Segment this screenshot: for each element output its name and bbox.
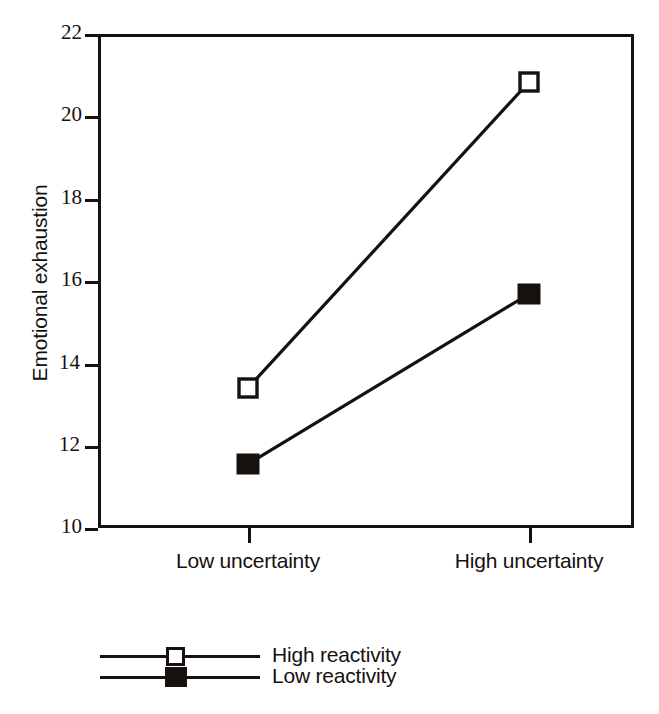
x-tick-label-high-uncertainty: High uncertainty [429, 549, 629, 573]
y-tick-label-16: 16 [40, 269, 82, 290]
chart-legend: High reactivity Low reactivity [98, 636, 518, 698]
plot-area-frame [98, 34, 634, 528]
y-tick-12 [85, 446, 98, 449]
y-tick-label-18: 18 [40, 187, 82, 208]
filled-square-icon [165, 667, 187, 687]
legend-label-low-reactivity: Low reactivity [272, 664, 396, 688]
y-tick-10 [85, 528, 98, 531]
y-tick-label-14: 14 [38, 352, 80, 373]
legend-entry-low-reactivity: Low reactivity [98, 665, 518, 691]
y-tick-14 [85, 364, 98, 367]
x-tick-label-low-uncertainty: Low uncertainty [148, 549, 348, 573]
y-tick-label-20: 20 [40, 104, 82, 125]
chart-figure: Emotional exhaustion 22 20 18 16 14 12 1… [0, 0, 659, 714]
open-square-icon [166, 647, 185, 666]
y-tick-label-22: 22 [40, 22, 82, 43]
x-tick-high-uncertainty [529, 528, 532, 543]
y-tick-label-12: 12 [38, 434, 80, 455]
y-tick-20 [85, 116, 98, 119]
y-tick-label-10: 10 [40, 516, 82, 537]
y-tick-16 [85, 281, 98, 284]
y-tick-18 [85, 199, 98, 202]
y-tick-22 [85, 34, 98, 37]
x-tick-low-uncertainty [248, 528, 251, 543]
